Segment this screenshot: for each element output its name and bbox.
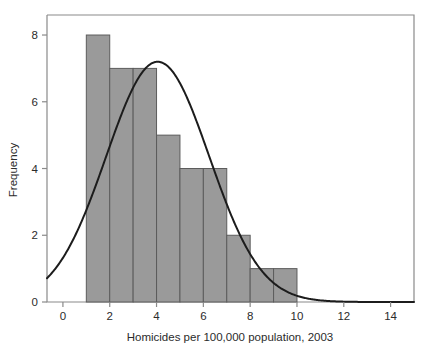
y-axis-title: Frequency xyxy=(7,143,19,198)
histogram-bar xyxy=(110,68,133,302)
x-axis-title: Homicides per 100,000 population, 2003 xyxy=(127,331,334,343)
histogram-bar xyxy=(227,235,250,302)
histogram-bar xyxy=(203,169,226,302)
y-tick-label: 4 xyxy=(32,163,39,175)
x-tick-label: 4 xyxy=(153,310,160,322)
y-tick-label: 8 xyxy=(32,29,38,41)
x-tick-label: 14 xyxy=(384,310,397,322)
x-tick-label: 2 xyxy=(107,310,113,322)
histogram-bar xyxy=(86,35,109,302)
histogram-bar xyxy=(250,269,273,302)
histogram-bar xyxy=(133,68,156,302)
x-tick-label: 0 xyxy=(60,310,66,322)
x-tick-label: 6 xyxy=(200,310,206,322)
chart-canvas: 02468101214 02468 Homicides per 100,000 … xyxy=(0,0,429,354)
histogram-figure: 02468101214 02468 Homicides per 100,000 … xyxy=(0,0,429,354)
x-tick-label: 12 xyxy=(337,310,350,322)
histogram-bar xyxy=(180,169,203,302)
y-tick-label: 0 xyxy=(32,296,38,308)
histogram-bar xyxy=(157,135,180,302)
y-tick-label: 2 xyxy=(32,229,38,241)
x-tick-label: 10 xyxy=(291,310,304,322)
x-tick-label: 8 xyxy=(247,310,253,322)
y-tick-label: 6 xyxy=(32,96,38,108)
